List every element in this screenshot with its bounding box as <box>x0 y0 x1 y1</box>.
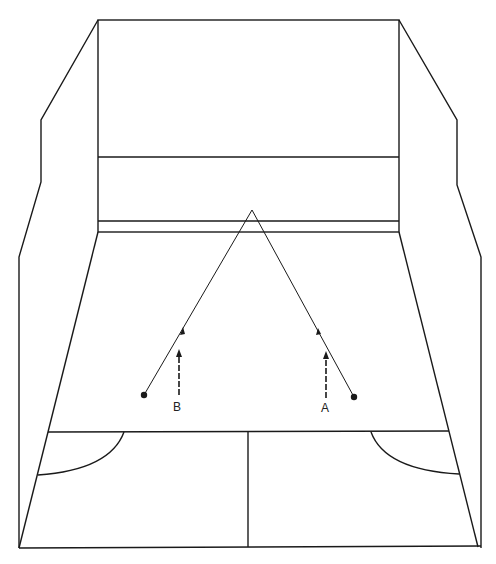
right-side-wall <box>399 20 481 548</box>
floor-left-edge <box>19 232 98 548</box>
player-b-arrowhead-icon <box>176 349 182 357</box>
player-a-label: A <box>321 401 329 415</box>
floor-right-edge <box>399 232 478 547</box>
ball-path-b <box>144 210 252 395</box>
left-side-wall <box>19 20 98 548</box>
ball-a <box>351 394 357 400</box>
squash-court-diagram <box>0 0 496 564</box>
left-service-box-arc <box>38 432 124 475</box>
floor-back-edge <box>19 546 481 548</box>
ball-path-a <box>252 210 354 397</box>
player-a-arrowhead-icon <box>323 351 329 359</box>
front-wall <box>98 20 399 232</box>
ball-b <box>141 392 147 398</box>
right-service-box-arc <box>371 432 459 474</box>
short-line <box>48 431 449 432</box>
player-b-label: B <box>173 400 181 414</box>
